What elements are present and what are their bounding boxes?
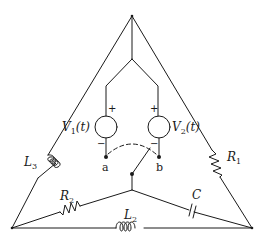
circuit-diagram: + − V1(t) + − V2(t) a b L3 R1 R2 C L2 [0,0,264,244]
v1-plus-sign: + [108,103,116,114]
l2-label: L2 [123,208,137,224]
node-a-label: a [102,161,109,174]
wire-center-to-c [132,190,189,210]
voltage-source-v1 [95,116,117,138]
v2-minus-sign: − [150,138,158,149]
switch-blade[interactable] [132,148,150,174]
wire-left-upper [48,16,132,155]
v2-plus-sign: + [150,103,158,114]
l3-label: L3 [23,155,37,171]
v1-label: V1(t) [62,120,90,136]
capacitor-c [189,204,196,218]
node-b [157,155,161,159]
resistor-r1 [209,150,222,177]
inductor-l3 [38,155,60,178]
voltage-source-v2 [148,116,170,138]
v2-label: V2(t) [172,120,200,136]
r1-label: R1 [226,150,241,166]
c-label: C [192,188,201,202]
node-a [104,155,108,159]
v1-minus-sign: − [97,138,105,149]
r2-label: R2 [59,189,74,205]
wire-center-to-r2 [80,190,132,206]
node-b-label: b [156,161,163,174]
